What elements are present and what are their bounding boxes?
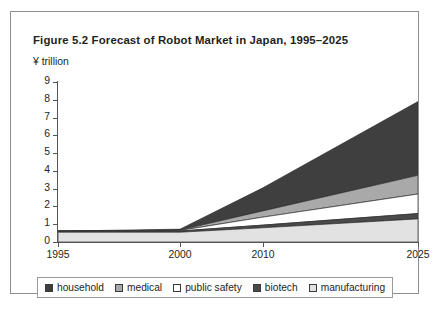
x-axis-line (57, 242, 419, 243)
y-tick-mark (53, 100, 57, 101)
legend-label: household (57, 282, 104, 293)
x-tick-mark (180, 243, 181, 247)
y-tick-mark (53, 171, 57, 172)
x-tick-label-1995: 1995 (28, 249, 88, 260)
x-tick-mark (418, 243, 419, 247)
legend-label: biotech (265, 282, 298, 293)
y-tick-mark (53, 189, 57, 190)
y-tick-label-7: 7 (26, 111, 50, 122)
y-tick-mark (53, 206, 57, 207)
y-tick-label-9: 9 (26, 75, 50, 86)
y-axis-unit-label: ¥ trillion (33, 56, 69, 67)
legend-label: public safety (185, 282, 242, 293)
y-tick-label-2: 2 (26, 199, 50, 210)
legend-swatch-icon (115, 284, 123, 292)
y-tick-label-3: 3 (26, 182, 50, 193)
x-tick-label-2000: 2000 (150, 249, 210, 260)
legend-swatch-icon (253, 284, 261, 292)
y-tick-mark (53, 153, 57, 154)
y-tick-mark (53, 242, 57, 243)
y-tick-mark (53, 118, 57, 119)
y-tick-mark (53, 82, 57, 83)
legend-item-medical[interactable]: medical (115, 282, 162, 293)
stacked-area-plot (58, 82, 418, 242)
x-tick-label-2010: 2010 (233, 249, 293, 260)
y-tick-label-1: 1 (26, 217, 50, 228)
y-tick-label-5: 5 (26, 146, 50, 157)
x-tick-mark (263, 243, 264, 247)
area-series-group (58, 82, 418, 242)
legend-item-household[interactable]: household (45, 282, 104, 293)
legend-item-biotech[interactable]: biotech (253, 282, 298, 293)
y-tick-mark (53, 135, 57, 136)
legend-label: medical (127, 282, 162, 293)
legend-label: manufacturing (321, 282, 386, 293)
legend-item-public-safety[interactable]: public safety (173, 282, 242, 293)
legend-item-manufacturing[interactable]: manufacturing (309, 282, 386, 293)
y-tick-label-8: 8 (26, 93, 50, 104)
y-tick-label-6: 6 (26, 128, 50, 139)
x-tick-mark (58, 243, 59, 247)
figure-title: Figure 5.2 Forecast of Robot Market in J… (33, 34, 348, 46)
figure-frame: Figure 5.2 Forecast of Robot Market in J… (10, 11, 419, 294)
y-tick-mark (53, 224, 57, 225)
x-tick-label-2025: 2025 (388, 249, 442, 260)
legend-swatch-icon (173, 284, 181, 292)
legend-swatch-icon (309, 284, 317, 292)
legend-swatch-icon (45, 284, 53, 292)
chart-legend: householdmedicalpublic safetybiotechmanu… (37, 277, 393, 298)
y-tick-label-0: 0 (26, 235, 50, 246)
y-tick-label-4: 4 (26, 164, 50, 175)
